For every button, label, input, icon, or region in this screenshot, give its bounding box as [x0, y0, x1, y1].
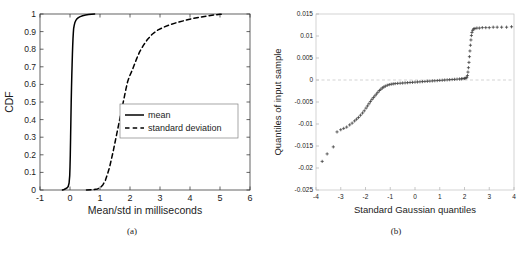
x-tick-label: -1 [36, 193, 44, 203]
y-tick-label: 0.01 [300, 32, 313, 39]
qq-plot: -4-3-2-101234-0.025-0.02-0.015-0.01-0.00… [264, 0, 528, 230]
y-axis-label: CDF [3, 91, 15, 113]
x-tick-label: 4 [187, 193, 192, 203]
y-tick-label: 0.4 [24, 115, 36, 125]
y-tick-label: 0.7 [24, 62, 36, 72]
y-axis-label: Quantiles of input sample [272, 48, 283, 155]
x-tick-label: -1 [387, 193, 393, 200]
y-tick-label: 1 [31, 9, 36, 19]
x-tick-label: 6 [247, 193, 252, 203]
y-tick-label: 0.015 [297, 10, 314, 17]
y-tick-label: -0.02 [298, 164, 313, 171]
x-tick-label: 3 [157, 193, 162, 203]
x-tick-label: 5 [217, 193, 222, 203]
y-tick-label: 0 [31, 185, 36, 195]
clipped-bottom-text [0, 246, 528, 255]
x-tick-label: 1 [97, 193, 102, 203]
y-tick-label: -0.005 [295, 98, 314, 105]
y-tick-label: -0.015 [295, 142, 314, 149]
y-tick-label: 0.8 [24, 44, 36, 54]
x-tick-label: 3 [487, 193, 491, 200]
y-tick-label: 0.3 [24, 132, 36, 142]
y-tick-label: 0.1 [24, 167, 36, 177]
x-tick-label: -4 [313, 193, 319, 200]
x-axis-label: Standard Gaussian quantiles [354, 204, 476, 215]
caption-b: (b) [264, 226, 528, 236]
chart-panel-a: -1012345600.10.20.30.40.50.60.70.80.91Me… [0, 0, 264, 230]
x-tick-label: 0 [67, 193, 72, 203]
caption-a: (a) [0, 226, 264, 236]
y-tick-label: 0.5 [24, 97, 36, 107]
y-tick-label: -0.025 [295, 186, 314, 193]
x-tick-label: 2 [127, 193, 132, 203]
y-tick-label: 0.005 [297, 54, 314, 61]
legend-label-0: mean [148, 110, 171, 120]
y-tick-label: 0.6 [24, 79, 36, 89]
figure-container: -1012345600.10.20.30.40.50.60.70.80.91Me… [0, 0, 528, 256]
y-tick-label: 0.2 [24, 150, 36, 160]
x-tick-label: 0 [413, 193, 417, 200]
y-tick-label: -0.01 [298, 120, 313, 127]
cdf-plot: -1012345600.10.20.30.40.50.60.70.80.91Me… [0, 0, 264, 230]
legend-label-1: standard deviation [148, 123, 222, 133]
x-tick-label: -2 [363, 193, 369, 200]
y-tick-label: 0.9 [24, 27, 36, 37]
y-tick-label: 0 [309, 76, 313, 83]
x-axis-label: Mean/std in milliseconds [88, 204, 202, 216]
x-tick-label: 1 [438, 193, 442, 200]
x-tick-label: 2 [463, 193, 467, 200]
x-tick-label: -3 [338, 193, 344, 200]
x-tick-label: 4 [512, 193, 516, 200]
plot-frame [316, 14, 514, 190]
chart-panel-b: -4-3-2-101234-0.025-0.02-0.015-0.01-0.00… [264, 0, 528, 230]
